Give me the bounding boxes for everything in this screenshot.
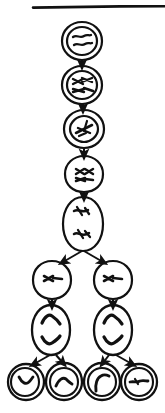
top-horizontal-rule bbox=[33, 6, 165, 7]
diagram-page: Cell division stages diagram bbox=[0, 0, 165, 413]
cell-division-diagram: Cell division stages diagram bbox=[0, 0, 165, 413]
stage-prometaphase-cell bbox=[64, 110, 104, 148]
